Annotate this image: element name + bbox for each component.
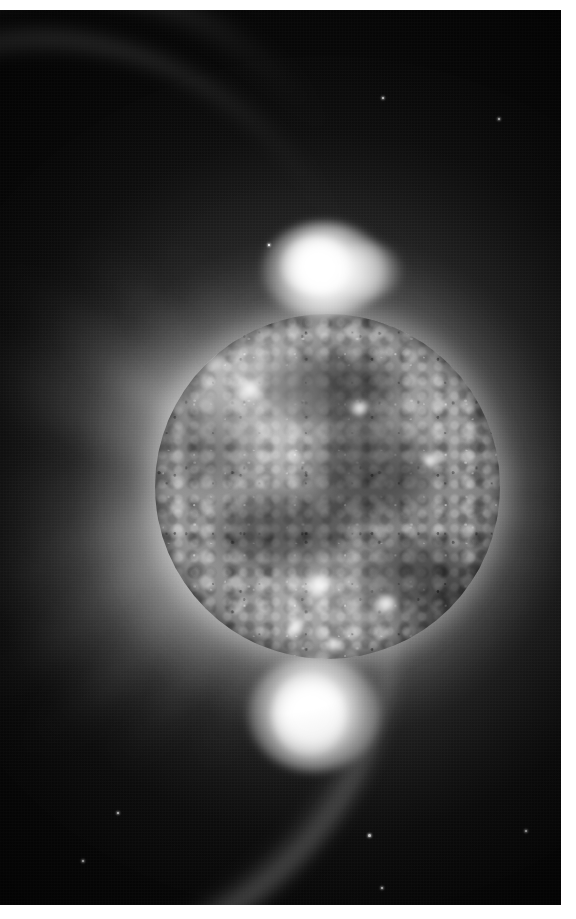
solar-disk xyxy=(155,314,500,659)
screenshot-root: Full-disk solar image showing the mottle… xyxy=(0,0,576,919)
cosmic-ray-speck xyxy=(382,97,384,99)
cosmic-ray-speck xyxy=(381,887,383,889)
image-title: Solar corona and disk in extreme ultravi… xyxy=(0,0,1,1)
cosmic-ray-speck xyxy=(525,830,527,832)
cosmic-ray-speck xyxy=(498,118,500,120)
cosmic-ray-speck xyxy=(368,834,371,837)
south-polar-prominence-core xyxy=(272,672,346,756)
image-alt-text: Black and white photograph of the Sun. A… xyxy=(0,0,1,1)
cosmic-ray-speck xyxy=(268,244,270,246)
north-prominence-wing xyxy=(330,242,402,300)
limb-brightening-ring xyxy=(155,314,500,659)
solar-image: Full-disk solar image showing the mottle… xyxy=(0,10,561,905)
cosmic-ray-speck xyxy=(82,860,84,862)
cosmic-ray-speck xyxy=(117,812,119,814)
